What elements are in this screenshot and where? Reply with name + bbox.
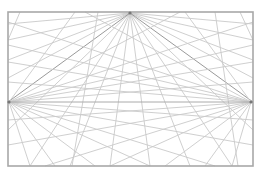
- ray-line: [232, 102, 251, 166]
- ray-line: [9, 102, 150, 166]
- ray-line: [130, 13, 253, 60]
- vanishing-point-top: [128, 11, 131, 14]
- ray-line: [30, 13, 130, 166]
- vanishing-points: [7, 11, 252, 103]
- vanishing-point-right: [249, 100, 252, 103]
- ray-line: [205, 102, 251, 166]
- ray-line: [9, 102, 55, 166]
- ray-line: [9, 102, 215, 166]
- construction-line: [8, 12, 20, 40]
- vanishing-point-left: [7, 100, 10, 103]
- ray-line: [45, 102, 251, 166]
- perspective-diagram: [0, 0, 262, 174]
- rays-from-right-vanishing-point: [8, 12, 251, 166]
- rays-from-top-vanishing-point: [8, 13, 253, 166]
- ray-line: [9, 12, 180, 102]
